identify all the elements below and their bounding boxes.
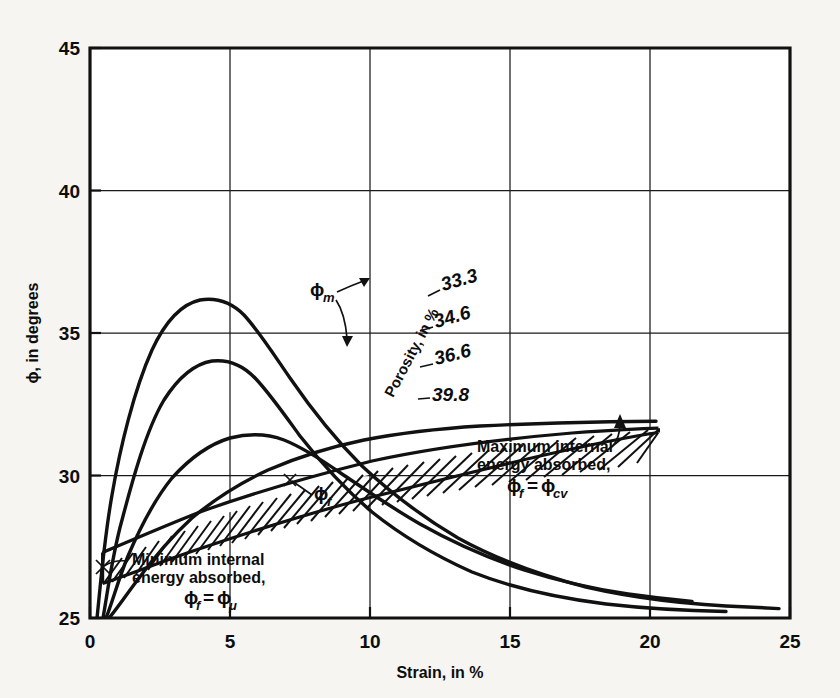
xtick-label-0: 0 — [85, 631, 96, 652]
xtick-label-25: 25 — [779, 631, 801, 652]
xtick-label-5: 5 — [225, 631, 236, 652]
ytick-label-40: 40 — [59, 181, 80, 202]
max-note-line1: Maximum internal — [477, 438, 613, 455]
y-axis-title: ϕ, in degrees — [24, 282, 41, 383]
xtick-label-20: 20 — [639, 631, 660, 652]
ytick-label-45: 45 — [59, 38, 81, 59]
curve-label-39-8: 39.8 — [432, 384, 469, 405]
xtick-label-15: 15 — [499, 631, 521, 652]
phi-m-subscript: m — [323, 290, 335, 305]
chart-svg: 45 40 35 30 25 0 5 10 15 20 25 Strain, i… — [0, 0, 840, 698]
min-note-line2: energy absorbed, — [132, 569, 265, 586]
min-note-phi-mu-sub: μ — [228, 598, 237, 613]
x-tick-labels: 0 5 10 15 20 25 — [85, 631, 801, 652]
ytick-label-30: 30 — [59, 466, 80, 487]
max-note-line2: energy absorbed, — [477, 456, 610, 473]
xtick-label-10: 10 — [359, 631, 380, 652]
max-note-phi-cv-sub: cv — [553, 486, 568, 501]
min-note-line1: Minimum internal — [132, 551, 264, 568]
max-note-equals: = — [527, 475, 538, 496]
figure-container: 45 40 35 30 25 0 5 10 15 20 25 Strain, i… — [0, 0, 840, 698]
leader-39-8 — [418, 398, 430, 399]
x-axis-title: Strain, in % — [396, 664, 483, 681]
ytick-label-25: 25 — [59, 608, 81, 629]
ytick-label-35: 35 — [59, 323, 81, 344]
y-tick-labels: 45 40 35 30 25 — [59, 38, 81, 629]
min-note-equals: = — [203, 587, 214, 608]
